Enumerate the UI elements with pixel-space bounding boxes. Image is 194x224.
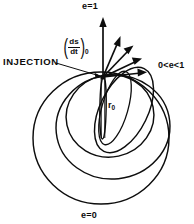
orbit-degenerate-radial [99,77,106,139]
label-injection-radius: r0 [108,101,115,110]
label-radius-subscript: 0 [112,104,116,111]
orbit-ellipse-mid [51,69,175,184]
label-elliptical-range: 0<e<1 [158,61,185,70]
velocity-fraction: ds dt [68,38,79,57]
vector-2 [103,46,134,78]
injection-leader [56,63,103,79]
velocity-numerator: ds [68,38,79,46]
vector-parabolic-e1 [99,17,106,77]
orbit-diagram-canvas [0,0,194,224]
label-radius-symbol: r [108,100,112,110]
label-velocity-open-paren: ( [63,38,68,56]
velocity-denominator: dt [69,48,79,56]
orbit-diagram: e=1 e=0 0<e<1 INJECTION r0 ( ds dt ) 0 [0,0,194,224]
label-velocity-close-paren: ) [80,38,85,56]
label-injection-velocity: ( ds dt ) 0 [62,38,90,57]
label-velocity-subscript: 0 [85,49,89,56]
label-parabolic-orbit: e=1 [82,2,98,11]
label-circular-orbit: e=0 [81,211,97,220]
label-injection-point: INJECTION [3,57,59,67]
orbit-ellipse-small [58,67,161,166]
